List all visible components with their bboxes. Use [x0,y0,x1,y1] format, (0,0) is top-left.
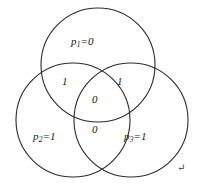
set-label-p2: p2=1 [33,131,56,143]
region-value-p1-p3: 1 [117,76,123,87]
venn-circles-svg [0,0,203,186]
set-label-p1-suffix: =0 [80,35,93,47]
circle-p3 [74,63,188,177]
region-value-p1-p2-p3: 0 [92,94,98,105]
set-label-p1: p1=0 [71,36,94,48]
region-value-p1-p2: 1 [62,76,68,87]
paragraph-return-mark: ↵ [177,162,185,173]
region-value-p2-p3: 0 [92,124,98,135]
set-label-p3-suffix: =1 [133,130,146,142]
venn-diagram-figure: p1=0 p2=1 p3=1 1 1 0 0 ↵ [0,0,203,186]
set-label-p2-suffix: =1 [42,130,55,142]
set-label-p3: p3=1 [124,131,147,143]
